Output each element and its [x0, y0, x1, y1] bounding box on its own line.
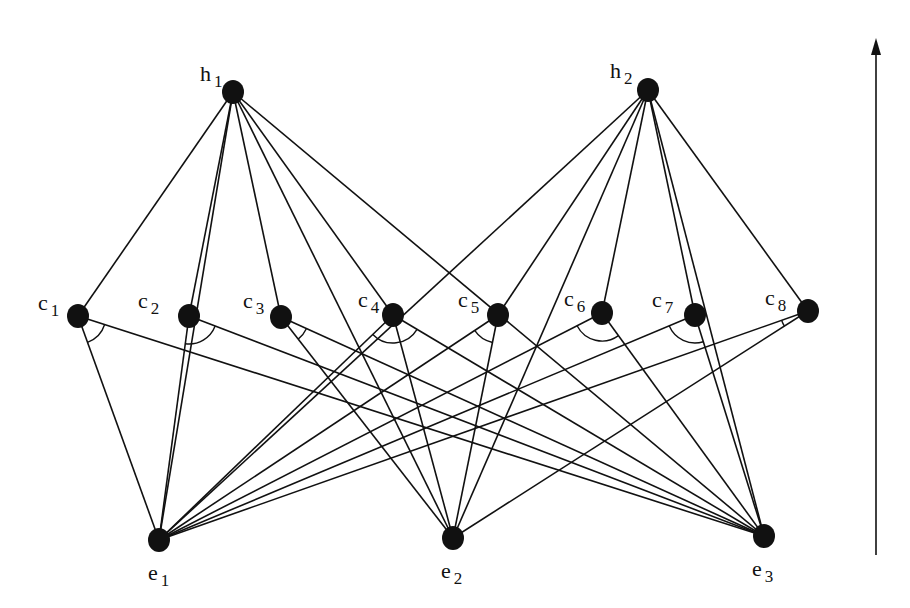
node-label-subscript: 2 [151, 299, 160, 318]
and-arc-c8 [782, 320, 785, 326]
node-label-h2: h2 [610, 60, 633, 82]
node-label-subscript: 7 [665, 298, 674, 317]
node-label-subscript: 1 [51, 301, 60, 320]
node-label-subscript: 6 [577, 297, 586, 316]
node-label-subscript: 2 [454, 569, 463, 588]
node-label-e2: e2 [441, 560, 462, 582]
edge-c6-e3 [602, 313, 764, 536]
edge-h1-e2 [233, 92, 453, 538]
edge-c7-e3 [695, 315, 764, 536]
node-label-base: c [652, 287, 662, 312]
node-c8 [797, 299, 819, 323]
node-label-c2: c2 [138, 290, 159, 312]
and-arc-c3 [298, 329, 306, 340]
node-label-subscript: 3 [765, 567, 774, 586]
node-label-base: c [358, 287, 368, 312]
node-label-base: c [564, 286, 574, 311]
node-label-base: e [441, 558, 451, 583]
and-arc-c1 [88, 325, 105, 343]
node-label-c3: c3 [243, 290, 264, 312]
and-arc-c5 [475, 330, 493, 342]
node-label-subscript: 4 [371, 298, 380, 317]
node-label-subscript: 3 [256, 299, 265, 318]
edge-c5-e1 [159, 315, 498, 540]
edge-h1-c1 [78, 92, 233, 316]
and-arc-c2 [185, 326, 215, 344]
edge-c7-e1 [159, 315, 695, 540]
node-label-c4: c4 [358, 289, 379, 311]
edge-c8-e1 [159, 311, 808, 540]
node-label-h1: h1 [200, 63, 223, 85]
node-label-base: c [138, 288, 148, 313]
node-label-base: c [243, 288, 253, 313]
node-c2 [178, 304, 200, 328]
edge-c1-e3 [78, 316, 764, 536]
upward-arrow-icon [871, 38, 881, 555]
node-c1 [67, 304, 89, 328]
and-arc-c7 [669, 326, 703, 343]
node-label-subscript: 1 [214, 72, 223, 91]
edge-c4-e2 [393, 315, 453, 538]
node-label-base: c [765, 285, 775, 310]
node-label-e3: e3 [752, 558, 773, 580]
node-c4 [382, 303, 404, 327]
node-c6 [591, 301, 613, 325]
node-label-e1: e1 [148, 562, 169, 584]
node-label-base: c [458, 287, 468, 312]
node-c7 [684, 303, 706, 327]
node-label-subscript: 8 [778, 296, 787, 315]
node-label-base: e [148, 560, 158, 585]
node-label-base: c [38, 290, 48, 315]
node-label-c8: c8 [765, 287, 786, 309]
node-label-subscript: 1 [161, 571, 170, 590]
node-label-c7: c7 [652, 289, 673, 311]
node-e3 [753, 524, 775, 548]
edge-c1-e1 [78, 316, 159, 540]
node-c5 [487, 303, 509, 327]
node-e2 [442, 526, 464, 550]
edge-c5-e2 [453, 315, 498, 538]
edge-c6-e1 [159, 313, 602, 540]
edge-h1-c2 [189, 92, 233, 316]
node-label-base: h [200, 61, 211, 86]
node-h1 [222, 80, 244, 104]
node-label-c5: c5 [458, 289, 479, 311]
node-label-base: e [752, 556, 762, 581]
node-label-subscript: 2 [624, 69, 633, 88]
arrow-head-icon [871, 38, 881, 55]
node-h2 [637, 78, 659, 102]
node-label-c6: c6 [564, 288, 585, 310]
node-label-subscript: 5 [471, 298, 480, 317]
edge-c2-e1 [159, 316, 189, 540]
edge-c3-e3 [281, 317, 764, 536]
node-label-c1: c1 [38, 292, 59, 314]
node-c3 [270, 305, 292, 329]
edge-h2-c8 [648, 90, 808, 311]
node-e1 [148, 528, 170, 552]
node-label-base: h [610, 58, 621, 83]
edge-c2-e3 [189, 316, 764, 536]
